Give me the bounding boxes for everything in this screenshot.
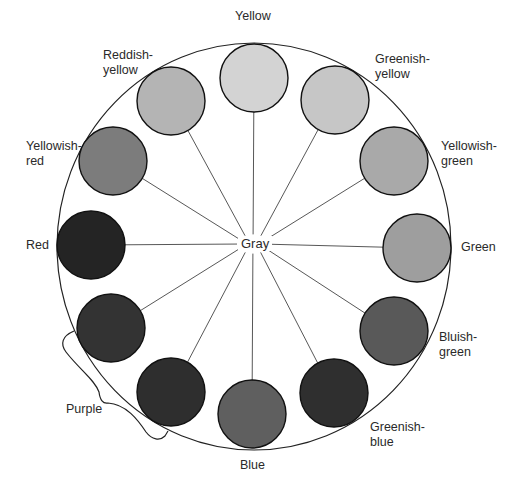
spoke-green (269, 244, 383, 247)
label-yellow: Yellow (235, 9, 271, 24)
label-line: Yellowish- (441, 139, 497, 154)
label-greenish-blue: Greenish-blue (370, 420, 425, 450)
spoke-greenish-yellow (261, 130, 318, 236)
label-line: green (441, 154, 497, 169)
spoke-purple-2 (187, 252, 245, 362)
spoke-reddish-yellow (188, 130, 245, 235)
label-line: Yellow (235, 9, 271, 24)
label-line: Green (461, 240, 496, 255)
label-bluish-green: Bluish-green (439, 330, 477, 360)
label-green: Green (461, 240, 496, 255)
swatch-red (57, 211, 125, 279)
spoke-purple-1 (140, 249, 239, 311)
label-line: yellow (103, 63, 153, 78)
label-line: red (26, 154, 82, 169)
center-label-gray: Gray (238, 236, 272, 251)
label-purple: Purple (66, 402, 102, 417)
label-line: Blue (240, 458, 265, 473)
spoke-blue (252, 254, 253, 380)
swatch-greenish-yellow (301, 66, 369, 134)
spoke-greenish-blue (261, 252, 318, 363)
label-line: Greenish- (375, 52, 430, 67)
swatch-purple-1 (77, 294, 145, 362)
swatch-yellow (220, 44, 288, 112)
spoke-yellow (253, 112, 254, 234)
label-yellowish-red: Yellowish-red (26, 139, 82, 169)
swatch-purple-2 (137, 358, 205, 426)
spoke-yellowish-green (267, 178, 365, 239)
swatch-yellowish-green (360, 127, 428, 195)
swatch-yellowish-red (79, 127, 147, 195)
label-line: Red (26, 238, 49, 253)
swatch-blue (218, 380, 286, 448)
label-greenish-yellow: Greenish-yellow (375, 52, 430, 82)
label-line: Bluish- (439, 330, 477, 345)
swatch-green (383, 214, 451, 282)
label-red: Red (26, 238, 49, 253)
label-line: green (439, 345, 477, 360)
spoke-red (125, 244, 237, 245)
label-line: blue (370, 435, 425, 450)
swatch-bluish-green (360, 297, 428, 365)
swatch-greenish-blue (300, 359, 368, 427)
label-reddish-yellow: Reddish-yellow (103, 48, 153, 78)
spoke-bluish-green (267, 249, 365, 313)
label-blue: Blue (240, 458, 265, 473)
label-line: Greenish- (370, 420, 425, 435)
spoke-yellowish-red (142, 178, 239, 239)
label-yellowish-green: Yellowish-green (441, 139, 497, 169)
label-line: Yellowish- (26, 139, 82, 154)
label-line: Reddish- (103, 48, 153, 63)
label-line: yellow (375, 67, 430, 82)
